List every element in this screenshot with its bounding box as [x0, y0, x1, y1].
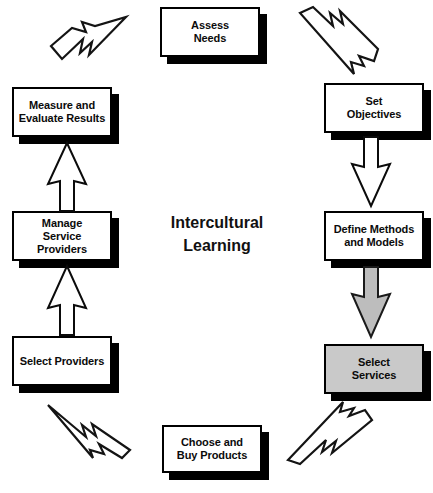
node-label: Measure and Evaluate Results — [16, 99, 108, 125]
node-label: Define Methods and Models — [331, 223, 418, 249]
node-label: Set Objectives — [344, 95, 405, 121]
arrow-choose-products-to-select-providers-icon — [46, 400, 142, 462]
node-label: Choose and Buy Products — [174, 436, 250, 462]
node-face: Assess Needs — [160, 7, 260, 57]
node-label: Select Providers — [17, 355, 108, 368]
node-face: Set Objectives — [324, 83, 424, 133]
process-node-define-methods-models[interactable]: Define Methods and Models — [324, 211, 424, 261]
arrow-set-objectives-to-define-methods-icon — [349, 136, 393, 208]
node-face: Define Methods and Models — [324, 211, 424, 261]
node-label: Manage Service Providers — [14, 217, 110, 256]
process-node-assess-needs[interactable]: Assess Needs — [160, 7, 260, 57]
process-node-choose-buy-products[interactable]: Choose and Buy Products — [162, 425, 262, 473]
node-face: Select Services — [324, 344, 424, 394]
process-node-measure-evaluate-results[interactable]: Measure and Evaluate Results — [12, 87, 112, 137]
centre-caption: Intercultural Learning — [126, 211, 308, 257]
arrow-select-providers-to-manage-providers-icon — [45, 264, 89, 338]
node-face: Choose and Buy Products — [162, 425, 262, 473]
arrow-manage-providers-to-measure-evaluate-icon — [45, 141, 89, 213]
process-node-select-services[interactable]: Select Services — [324, 344, 424, 394]
arrow-measure-evaluate-to-assess-needs-icon — [42, 14, 128, 70]
arrow-define-methods-to-select-services-icon — [349, 266, 393, 340]
node-label: Select Services — [349, 356, 399, 382]
arrow-assess-needs-to-set-objectives-icon — [296, 14, 386, 72]
node-face: Measure and Evaluate Results — [12, 87, 112, 137]
node-label: Assess Needs — [188, 19, 232, 45]
arrow-select-services-to-choose-products-icon — [284, 400, 378, 462]
process-node-manage-service-providers[interactable]: Manage Service Providers — [12, 211, 112, 261]
node-face: Manage Service Providers — [12, 211, 112, 261]
process-node-set-objectives[interactable]: Set Objectives — [324, 83, 424, 133]
node-face: Select Providers — [12, 336, 112, 386]
process-node-select-providers[interactable]: Select Providers — [12, 336, 112, 386]
diagram-canvas: Assess Needs Set Objectives Define Metho… — [0, 0, 433, 493]
